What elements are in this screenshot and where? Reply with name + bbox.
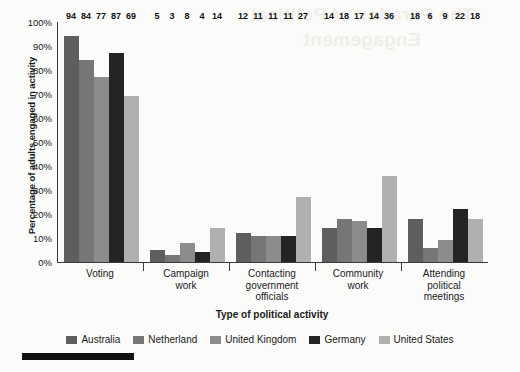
x-axis-category-label: Campaignwork	[143, 268, 229, 303]
y-axis-tick-label: 30%	[33, 185, 58, 196]
bar-value-label: 84	[81, 11, 91, 21]
y-axis-tick-label: 80%	[33, 65, 58, 76]
y-axis-tick-label: 70%	[33, 89, 58, 100]
y-axis-tick-label: 10%	[33, 233, 58, 244]
bar: 14	[367, 228, 382, 262]
bar-group: 18692218	[402, 22, 488, 262]
bar-value-label: 17	[354, 11, 364, 21]
legend-label: United States	[394, 334, 454, 345]
bar-column: 84	[79, 22, 94, 262]
bar: 14	[210, 228, 225, 262]
bar-value-label: 11	[283, 11, 293, 21]
bar: 69	[124, 96, 139, 262]
bar-column: 17	[352, 22, 367, 262]
bar: 22	[453, 209, 468, 262]
bar: 17	[352, 221, 367, 262]
bar-column: 14	[367, 22, 382, 262]
bar-column: 14	[322, 22, 337, 262]
y-axis-tick-label: 0%	[38, 257, 58, 268]
x-axis-category-label: Communitywork	[315, 268, 401, 303]
bar-column: 11	[251, 22, 266, 262]
x-axis-category-label: Voting	[57, 268, 143, 303]
x-axis-category-label: Contactinggovernmentofficials	[229, 268, 315, 303]
chart-legend: AustraliaNetherlandUnited KingdomGermany…	[0, 334, 520, 345]
bar-value-label: 77	[96, 11, 106, 21]
bar-column: 27	[296, 22, 311, 262]
bar: 11	[266, 236, 281, 262]
bar-value-label: 18	[410, 11, 420, 21]
bar-column: 5	[150, 22, 165, 262]
bar-group: 1418171436	[316, 22, 402, 262]
y-axis-tick-label: 20%	[33, 209, 58, 220]
x-axis-category-label: Attendingpoliticalmeetings	[401, 268, 487, 303]
plot-area: 0%10%20%30%40%50%60%70%80%90%100% 948477…	[57, 22, 488, 263]
legend-label: Germany	[324, 334, 365, 345]
bar: 18	[337, 219, 352, 262]
bar-value-label: 69	[126, 11, 136, 21]
bar-column: 14	[210, 22, 225, 262]
bar-value-label: 14	[212, 11, 222, 21]
bar-value-label: 94	[66, 11, 76, 21]
bar-column: 77	[94, 22, 109, 262]
legend-item[interactable]: Australia	[66, 334, 120, 345]
legend-label: Australia	[81, 334, 120, 345]
bar: 11	[281, 236, 296, 262]
bar-value-label: 27	[298, 11, 308, 21]
bar-column: 9	[438, 22, 453, 262]
bar-column: 3	[165, 22, 180, 262]
bar-group: 538414	[144, 22, 230, 262]
bar: 18	[468, 219, 483, 262]
bar-value-label: 14	[324, 11, 334, 21]
bar-value-label: 22	[455, 11, 465, 21]
legend-swatch-icon	[210, 336, 221, 344]
bar-value-label: 87	[111, 11, 121, 21]
y-axis-tick-label: 90%	[33, 41, 58, 52]
y-axis-tick-label: 100%	[28, 17, 58, 28]
bar-group: 9484778769	[58, 22, 144, 262]
bar: 87	[109, 53, 124, 262]
x-axis-category-labels: VotingCampaignworkContactinggovernmentof…	[57, 268, 487, 303]
bar-column: 11	[266, 22, 281, 262]
bar-group: 1211111127	[230, 22, 316, 262]
legend-swatch-icon	[133, 336, 144, 344]
legend-swatch-icon	[309, 336, 320, 344]
bar-column: 11	[281, 22, 296, 262]
bar: 9	[438, 240, 453, 262]
grouped-bar-chart: Percentage of adults engaged in activity…	[0, 0, 520, 372]
bar-column: 18	[408, 22, 423, 262]
legend-label: United Kingdom	[225, 334, 296, 345]
legend-item[interactable]: Netherland	[133, 334, 197, 345]
legend-item[interactable]: United Kingdom	[210, 334, 296, 345]
bar-value-label: 9	[442, 11, 447, 21]
bar-value-label: 14	[369, 11, 379, 21]
bar-value-label: 11	[268, 11, 278, 21]
y-axis-tick-label: 60%	[33, 113, 58, 124]
bar-column: 8	[180, 22, 195, 262]
bar-column: 69	[124, 22, 139, 262]
bar: 6	[423, 248, 438, 262]
bar: 4	[195, 252, 210, 262]
bar: 14	[322, 228, 337, 262]
bar-value-label: 8	[184, 11, 189, 21]
bar: 84	[79, 60, 94, 262]
legend-item[interactable]: United States	[379, 334, 454, 345]
bar-column: 12	[236, 22, 251, 262]
bar-value-label: 5	[154, 11, 159, 21]
bar-value-label: 18	[470, 11, 480, 21]
page-edge-marker	[22, 353, 134, 360]
bar: 5	[150, 250, 165, 262]
bar-value-label: 12	[238, 11, 248, 21]
legend-swatch-icon	[379, 336, 390, 344]
bar-column: 4	[195, 22, 210, 262]
bar: 36	[382, 176, 397, 262]
y-axis-tick-label: 50%	[33, 137, 58, 148]
bar-value-label: 6	[427, 11, 432, 21]
bar-column: 18	[337, 22, 352, 262]
bar-value-label: 11	[253, 11, 263, 21]
legend-item[interactable]: Germany	[309, 334, 365, 345]
bar-column: 87	[109, 22, 124, 262]
bar-value-label: 3	[169, 11, 174, 21]
bar: 27	[296, 197, 311, 262]
bar-value-label: 36	[384, 11, 394, 21]
bar-column: 18	[468, 22, 483, 262]
